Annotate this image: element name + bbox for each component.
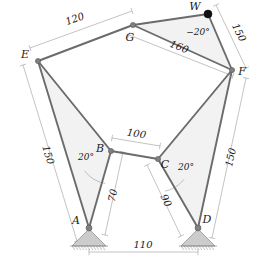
node-label-F: F xyxy=(237,65,246,78)
support-D-hatch xyxy=(208,246,211,250)
node-label-D: D xyxy=(202,213,212,226)
dim-AD-label: 110 xyxy=(133,239,153,250)
support-A-hatch xyxy=(84,246,87,250)
support-A-hatch xyxy=(72,246,75,250)
support-D-hatch xyxy=(181,246,184,250)
support-A-triangle xyxy=(72,229,106,246)
support-D-hatch xyxy=(205,246,208,250)
node-G[interactable] xyxy=(130,22,135,27)
support-A-hatch xyxy=(93,246,96,250)
support-D-hatch xyxy=(187,246,190,250)
node-label-W: W xyxy=(189,0,202,13)
member-EG xyxy=(38,25,133,61)
mechanism-diagram: 1201501601501501007090110 20°20°−20° ABC… xyxy=(0,0,263,268)
support-D-hatch xyxy=(193,246,196,250)
dim-EA-label: 150 xyxy=(40,144,56,166)
angle-C-label: 20° xyxy=(177,162,194,172)
node-W[interactable] xyxy=(204,10,212,18)
dim-GF-tick-1 xyxy=(232,73,234,79)
node-E[interactable] xyxy=(35,58,40,63)
dim-CD-tick-0 xyxy=(144,164,150,167)
support-A-hatch xyxy=(102,246,105,250)
support-D xyxy=(179,229,217,250)
support-D-hatch xyxy=(202,246,205,250)
dim-WF-tick-0 xyxy=(213,4,219,7)
dim-CD-tick-1 xyxy=(178,235,184,238)
support-A-hatch xyxy=(96,246,99,250)
support-D-hatch xyxy=(199,246,202,250)
node-F[interactable] xyxy=(229,67,234,72)
node-A[interactable] xyxy=(86,225,92,231)
support-A-hatch xyxy=(90,246,93,250)
member-BC xyxy=(111,151,158,159)
dim-BC-line xyxy=(112,138,160,146)
support-D-hatch xyxy=(211,246,214,250)
support-D-hatch xyxy=(184,246,187,250)
support-A-hatch xyxy=(75,246,78,250)
support-A-hatch xyxy=(81,246,84,250)
dim-AB-label: 70 xyxy=(106,187,120,202)
dim-CD-label: 90 xyxy=(158,192,174,209)
support-D-hatch xyxy=(190,246,193,250)
support-D-hatch xyxy=(196,246,199,250)
support-A-hatch xyxy=(87,246,90,250)
node-label-B: B xyxy=(95,142,104,155)
dim-DF-label: 150 xyxy=(223,146,238,168)
node-label-C: C xyxy=(161,158,170,171)
node-label-A: A xyxy=(71,214,80,227)
dim-BC-label: 100 xyxy=(126,127,147,141)
node-B[interactable] xyxy=(108,148,113,153)
angle-B-label: 20° xyxy=(77,152,94,162)
node-label-G: G xyxy=(126,31,135,44)
angle-W-label: −20° xyxy=(186,27,210,37)
node-label-E: E xyxy=(20,48,29,61)
node-D[interactable] xyxy=(195,225,201,231)
support-A xyxy=(70,229,108,250)
panel-fills-group xyxy=(38,14,232,228)
support-A-hatch xyxy=(99,246,102,250)
dim-EG-label: 120 xyxy=(64,10,86,27)
support-A-hatch xyxy=(78,246,81,250)
diagram-canvas: 1201501601501501007090110 20°20°−20° ABC… xyxy=(0,0,263,268)
